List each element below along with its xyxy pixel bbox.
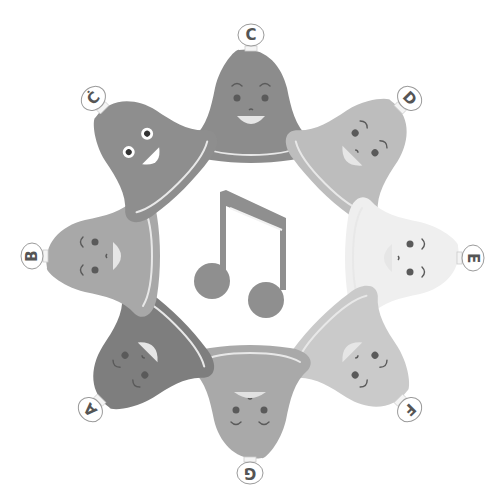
note-stem-right [280, 222, 286, 290]
eye-left [261, 407, 268, 414]
note-label: E [464, 253, 482, 263]
eye-left [92, 267, 99, 274]
bells-layer: CDEFGABĊ [21, 24, 484, 484]
eye-right [233, 407, 240, 414]
music-note-icon [194, 190, 286, 318]
eye-right [92, 239, 99, 246]
note-head-left [194, 263, 230, 299]
eye-left [234, 95, 241, 102]
illustration-canvas: CDEFGABĊ [0, 0, 502, 501]
eye-right [407, 269, 414, 276]
note-head-right [248, 282, 284, 318]
eye-right [262, 95, 269, 102]
bell-handle [457, 252, 462, 264]
note-label: B [23, 250, 41, 261]
bell-handle [43, 250, 48, 262]
note-label: G [244, 464, 256, 482]
handbell-illustration: CDEFGABĊ [0, 0, 502, 501]
note-label: C [245, 26, 256, 44]
bell-c-high: Ċ [43, 48, 227, 232]
eye-left [407, 241, 414, 248]
note-stem-beam [220, 190, 286, 272]
bell-handle [244, 457, 256, 462]
bell-handle [245, 46, 257, 51]
